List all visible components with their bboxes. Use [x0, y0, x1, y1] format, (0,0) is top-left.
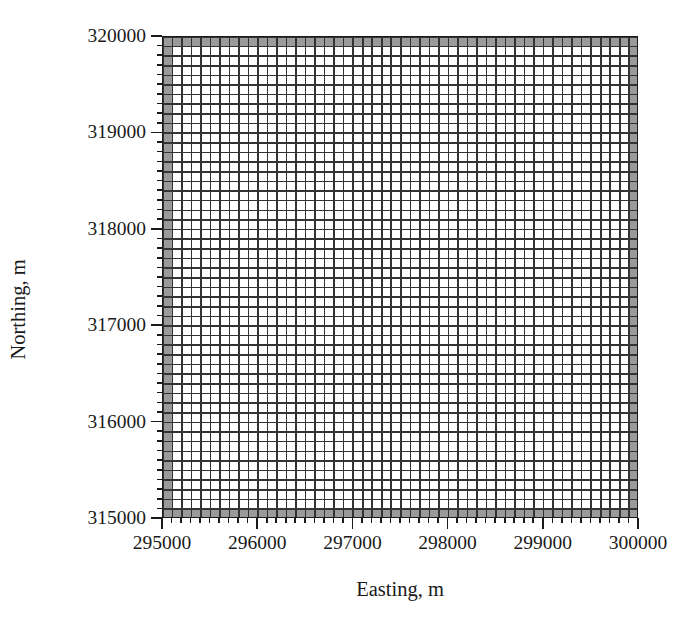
y-axis-minor-tick — [157, 257, 162, 259]
y-axis-minor-tick — [157, 440, 162, 442]
y-axis-minor-tick — [157, 459, 162, 461]
y-axis-minor-tick — [157, 103, 162, 105]
x-axis-major-tick — [256, 518, 258, 529]
x-axis-minor-tick — [180, 518, 182, 523]
x-axis-minor-tick — [494, 518, 496, 523]
y-axis-minor-tick — [157, 161, 162, 163]
x-axis-major-tick — [447, 518, 449, 529]
grid-map-figure: 295000296000297000298000299000300000 315… — [0, 0, 699, 619]
x-axis-minor-tick — [371, 518, 373, 523]
y-axis-minor-tick — [157, 353, 162, 355]
x-axis-minor-tick — [418, 518, 420, 523]
y-axis-minor-tick — [157, 488, 162, 490]
y-axis-tick-label: 315000 — [88, 508, 147, 528]
y-axis-minor-tick — [157, 238, 162, 240]
y-axis-minor-tick — [157, 450, 162, 452]
y-axis-minor-tick — [157, 276, 162, 278]
y-axis-minor-tick — [157, 498, 162, 500]
x-axis-major-tick — [542, 518, 544, 529]
y-axis-minor-tick — [157, 373, 162, 375]
y-axis-ticks — [151, 0, 162, 619]
x-axis-minor-tick — [609, 518, 611, 523]
y-axis-minor-tick — [157, 295, 162, 297]
x-axis-minor-tick — [456, 518, 458, 523]
x-axis-minor-tick — [361, 518, 363, 523]
y-axis-major-tick — [151, 517, 162, 519]
x-axis-minor-tick — [342, 518, 344, 523]
x-axis-minor-tick — [532, 518, 534, 523]
x-axis-minor-tick — [561, 518, 563, 523]
x-axis-minor-tick — [209, 518, 211, 523]
y-axis-minor-tick — [157, 141, 162, 143]
x-axis-minor-tick — [247, 518, 249, 523]
y-axis-minor-tick — [157, 122, 162, 124]
y-axis-tick-label: 316000 — [88, 412, 147, 432]
y-axis-title: Northing, m — [0, 0, 36, 619]
x-axis-minor-tick — [513, 518, 515, 523]
x-axis-tick-label: 296000 — [228, 533, 287, 553]
x-axis-minor-tick — [266, 518, 268, 523]
x-axis-title: Easting, m — [162, 578, 638, 601]
y-axis-minor-tick — [157, 151, 162, 153]
x-axis-minor-tick — [485, 518, 487, 523]
y-axis-minor-tick — [157, 334, 162, 336]
y-axis-minor-tick — [157, 430, 162, 432]
y-axis-major-tick — [151, 324, 162, 326]
y-axis-minor-tick — [157, 209, 162, 211]
x-axis-minor-tick — [409, 518, 411, 523]
y-axis-tick-label: 318000 — [88, 219, 147, 239]
y-axis-tick-label: 319000 — [88, 123, 147, 143]
x-axis-major-tick — [637, 518, 639, 529]
y-axis-minor-tick — [157, 402, 162, 404]
x-axis-minor-tick — [190, 518, 192, 523]
x-axis-minor-tick — [333, 518, 335, 523]
y-axis-minor-tick — [157, 218, 162, 220]
x-axis-minor-tick — [323, 518, 325, 523]
y-axis-minor-tick — [157, 286, 162, 288]
x-axis-major-tick — [352, 518, 354, 529]
x-axis-minor-tick — [285, 518, 287, 523]
y-axis-minor-tick — [157, 64, 162, 66]
x-axis-minor-tick — [390, 518, 392, 523]
y-axis-minor-tick — [157, 170, 162, 172]
y-axis-minor-tick — [157, 112, 162, 114]
y-axis-minor-tick — [157, 411, 162, 413]
y-axis-minor-tick — [157, 479, 162, 481]
y-axis-minor-tick — [157, 344, 162, 346]
x-axis-minor-tick — [428, 518, 430, 523]
x-axis-minor-tick — [228, 518, 230, 523]
x-axis-tick-label: 298000 — [418, 533, 477, 553]
x-axis-minor-tick — [304, 518, 306, 523]
y-axis-minor-tick — [157, 469, 162, 471]
y-axis-major-tick — [151, 421, 162, 423]
x-axis-minor-tick — [437, 518, 439, 523]
y-axis-minor-tick — [157, 363, 162, 365]
y-axis-minor-tick — [157, 305, 162, 307]
x-axis-minor-tick — [275, 518, 277, 523]
y-axis-minor-tick — [157, 54, 162, 56]
y-axis-major-tick — [151, 132, 162, 134]
x-axis-minor-tick — [523, 518, 525, 523]
y-axis-minor-tick — [157, 189, 162, 191]
x-axis-minor-tick — [552, 518, 554, 523]
x-axis-minor-tick — [580, 518, 582, 523]
y-axis-minor-tick — [157, 93, 162, 95]
x-axis-minor-tick — [380, 518, 382, 523]
y-axis-minor-tick — [157, 199, 162, 201]
x-axis-minor-tick — [628, 518, 630, 523]
x-axis-minor-tick — [199, 518, 201, 523]
x-axis-minor-tick — [618, 518, 620, 523]
plot-area — [162, 36, 638, 518]
y-axis-minor-tick — [157, 392, 162, 394]
y-axis-minor-tick — [157, 382, 162, 384]
y-axis-minor-tick — [157, 247, 162, 249]
x-axis-minor-tick — [218, 518, 220, 523]
x-axis-minor-tick — [237, 518, 239, 523]
x-axis-minor-tick — [466, 518, 468, 523]
y-axis-minor-tick — [157, 315, 162, 317]
y-axis-major-tick — [151, 35, 162, 37]
x-axis-minor-tick — [314, 518, 316, 523]
x-axis-minor-tick — [171, 518, 173, 523]
x-axis-minor-tick — [590, 518, 592, 523]
x-axis-minor-tick — [399, 518, 401, 523]
